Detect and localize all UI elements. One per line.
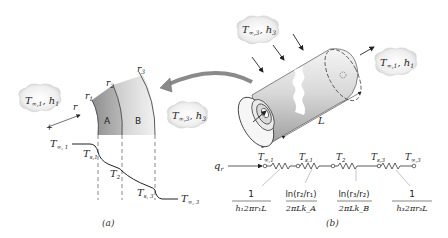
radius-axis-label: r (73, 102, 78, 112)
svg-text:T∞,3, h3: T∞,3, h3 (172, 110, 206, 122)
radius-r2: r2 (106, 78, 114, 89)
node-label-T-inf3: T∞,3 (405, 152, 421, 163)
leader-r1 (262, 169, 280, 186)
svg-text:T∞,3, h3: T∞,3, h3 (242, 24, 276, 36)
ambient-inner-T: T∞,1, h1 (25, 95, 59, 107)
node-label-Ts1: Ts,1 (299, 152, 313, 163)
resistance-conv-inner: 1 h₁2πr₁L (232, 189, 271, 213)
node-T-inf3 (412, 164, 416, 168)
node-Ts3 (377, 164, 381, 168)
svg-text:h₁2πr₁L: h₁2πr₁L (235, 204, 266, 213)
svg-text:2πLk_B: 2πLk_B (338, 204, 370, 213)
length-label: L (317, 115, 325, 126)
composite-cylinder-diagram: T∞,1, h1 + r r1 r2 r3 A B T∞,3, h3 T∞, 1… (0, 0, 448, 238)
svg-text:1: 1 (409, 189, 415, 199)
incoming-arrow-1 (252, 57, 263, 72)
node-T-inf1 (263, 164, 267, 168)
panel-a: T∞,1, h1 + r r1 r2 r3 A B T∞,3, h3 T∞, 1… (19, 64, 208, 228)
layer-a-label: A (104, 116, 111, 126)
layer-b-label: B (135, 116, 141, 126)
svg-text:h₃2πr₃L: h₃2πr₃L (396, 204, 427, 213)
zoom-arrow (164, 73, 252, 86)
origin-plus: + (46, 123, 53, 132)
zoom-arrow-head (160, 78, 172, 92)
ambient-inner-cloud-b: T∞,1, h1 (375, 48, 417, 76)
svg-text:ln(r₃/r₂): ln(r₃/r₂) (338, 189, 369, 199)
svg-text:2πLk_A: 2πLk_A (285, 204, 317, 213)
ambient-outer-cloud-a: T∞,3, h3 (167, 101, 207, 128)
cylinder (231, 44, 369, 153)
node-Ts1 (296, 164, 300, 168)
radius-r3: r3 (137, 64, 145, 75)
panel-b: T∞,3, h3 L T∞,1, h1 (214, 16, 432, 228)
profile-T2: T2 (110, 168, 121, 180)
node-label-T-inf1: T∞,1 (258, 152, 274, 163)
resistance-conv-outer: 1 h₃2πr₃L (392, 189, 432, 213)
svg-text:ln(r₂/r₁): ln(r₂/r₁) (285, 189, 316, 199)
resistor-chain (265, 163, 414, 169)
caption-b: (b) (326, 218, 339, 228)
outgoing-arrow (360, 47, 374, 55)
ambient-inner-cloud: T∞,1, h1 (19, 84, 61, 112)
profile-T-inf3: T∞, 3 (181, 193, 200, 205)
leader-r2 (305, 169, 312, 183)
radius-r1: r1 (85, 91, 93, 102)
caption-a: (a) (102, 218, 115, 228)
node-label-Ts3: Ts,3 (371, 152, 386, 163)
incoming-arrow-2 (273, 45, 284, 60)
leader-r4 (396, 170, 410, 186)
node-T2 (331, 164, 335, 168)
node-label-T2: T2 (336, 152, 346, 163)
radius-arrow (48, 115, 80, 127)
profile-Ts3: Ts, 3 (137, 187, 154, 199)
thermal-circuit: qr T∞,1 Ts,1 T2 Ts,3 T∞,3 1 h₁2πr₁L (214, 152, 432, 213)
profile-T-inf1: T∞, 1 (50, 138, 68, 150)
svg-text:T∞,1, h1: T∞,1, h1 (380, 57, 414, 69)
resistance-cond-a: ln(r₂/r₁) 2πLk_A (285, 189, 317, 213)
ambient-outer-cloud-b: T∞,3, h3 (237, 16, 279, 44)
resistance-cond-b: ln(r₃/r₂) 2πLk_B (337, 189, 372, 213)
incoming-arrow-3 (293, 34, 303, 50)
profile-Ts1: Ts,1 (83, 148, 98, 160)
svg-text:1: 1 (248, 189, 254, 199)
heat-rate-label: qr (214, 160, 224, 172)
